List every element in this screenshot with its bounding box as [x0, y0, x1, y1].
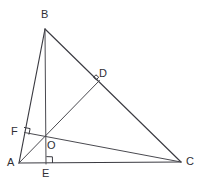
- vertex-label-o: O: [47, 140, 56, 151]
- figure-canvas: [0, 0, 206, 186]
- vertex-label-b: B: [41, 9, 48, 20]
- vertex-label-e: E: [42, 168, 49, 179]
- vertex-label-c: C: [186, 156, 194, 167]
- vertex-label-f: F: [11, 126, 18, 137]
- segment-ac: [19, 162, 181, 163]
- geometry-figure: A B C D E F O: [0, 0, 206, 186]
- segment-altitude-ad: [19, 81, 100, 164]
- segment-bc: [45, 29, 181, 162]
- right-angle-marker-e: [46, 157, 52, 163]
- vertex-label-d: D: [99, 68, 107, 79]
- segment-ab: [19, 29, 45, 163]
- segment-altitude-be: [45, 29, 46, 164]
- vertex-label-a: A: [7, 157, 14, 168]
- right-angle-marker-d: [94, 75, 99, 78]
